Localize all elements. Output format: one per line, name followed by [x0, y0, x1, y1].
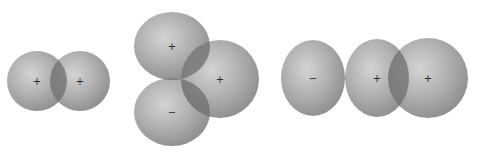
plus-sign: + [424, 73, 432, 84]
orbital-group-3: −++ [281, 38, 468, 118]
minus-sign: − [168, 107, 176, 118]
orbital-overlap-diagram: +++−+−++ [0, 0, 487, 154]
plus-sign: + [373, 73, 381, 84]
plus-sign: + [216, 74, 224, 85]
minus-sign: − [309, 73, 317, 84]
orbital-group-1: ++ [7, 51, 110, 111]
plus-sign: + [33, 76, 41, 87]
diagram-canvas: +++−+−++ [0, 0, 487, 154]
plus-sign: + [76, 76, 84, 87]
orbital-group-2: +−+ [134, 12, 259, 146]
plus-sign: + [168, 41, 176, 52]
